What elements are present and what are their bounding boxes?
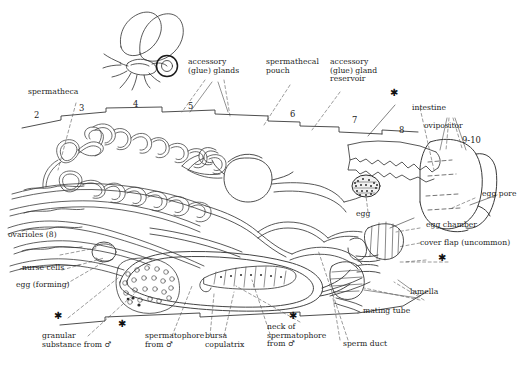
figure-canvas: spermatheca accessory (glue) glands sper… bbox=[0, 0, 525, 365]
label-spermathecal-pouch: spermathecal pouch bbox=[266, 58, 319, 75]
label-egg-chamber: egg chamber bbox=[426, 221, 477, 230]
label-accessory-gland-reservoir: accessory (glue) gland reservoir bbox=[330, 58, 377, 84]
asterisk-marker-3: ✱ bbox=[289, 311, 297, 321]
label-spermatheca: spermatheca bbox=[28, 88, 78, 97]
label-granular-substance: granular substance from ♂ bbox=[42, 332, 111, 349]
label-ovarioles: ovarioles (8) bbox=[8, 231, 57, 240]
asterisk-marker-1: ✱ bbox=[390, 88, 398, 98]
moth-insect-habitus-inset bbox=[103, 12, 183, 90]
accessory-glands-leader bbox=[190, 82, 228, 112]
bursa-copulatrix-shape bbox=[120, 251, 350, 311]
segment-number-3: 3 bbox=[79, 103, 84, 113]
asterisk-marker-5: ✱ bbox=[54, 311, 62, 321]
segment-number-6: 6 bbox=[290, 109, 295, 119]
anatomical-line-art bbox=[0, 0, 525, 365]
lamella-shape bbox=[334, 298, 362, 312]
segment-number-9-10: 9-10 bbox=[462, 135, 481, 145]
label-sperm-duct: sperm duct bbox=[343, 340, 387, 349]
label-accessory-glue-glands: accessory (glue) glands bbox=[188, 58, 239, 75]
segment-number-4: 4 bbox=[133, 99, 138, 109]
segment-number-2: 2 bbox=[34, 110, 39, 120]
label-cover-flap: cover flap (uncommon) bbox=[420, 239, 510, 248]
cover-flap-shape bbox=[348, 238, 380, 262]
label-neck-of-spermatophore: neck of spermatophore from ♂ bbox=[267, 323, 326, 349]
label-egg: egg bbox=[356, 210, 370, 219]
label-ovipositor: ovipositor bbox=[424, 122, 463, 131]
egg-chamber-shape bbox=[364, 222, 403, 260]
leader-lines bbox=[58, 80, 475, 340]
label-spermatophore: spermatophore from ♂ bbox=[145, 332, 204, 349]
label-lamella: lamella bbox=[410, 288, 438, 297]
label-intestine: intestine bbox=[412, 104, 446, 113]
segment-number-7: 7 bbox=[352, 115, 357, 125]
asterisk-marker-2: ✱ bbox=[438, 253, 446, 263]
label-nurse-cells: nurse cells bbox=[22, 264, 64, 273]
label-mating-tube: mating tube bbox=[363, 307, 410, 316]
ovipositor-shape bbox=[420, 139, 497, 231]
spermathecal-pouch-shape bbox=[212, 154, 293, 202]
segment-number-8: 8 bbox=[399, 125, 404, 135]
spermatophore-shape bbox=[200, 266, 296, 292]
label-egg-pore: egg pore bbox=[482, 190, 517, 199]
label-egg-forming: egg (forming) bbox=[16, 281, 70, 290]
label-bursa-copulatrix: bursa copulatrix bbox=[205, 332, 244, 349]
segment-number-5: 5 bbox=[188, 101, 193, 111]
asterisk-marker-4: ✱ bbox=[118, 319, 126, 329]
egg-shape bbox=[352, 175, 380, 197]
